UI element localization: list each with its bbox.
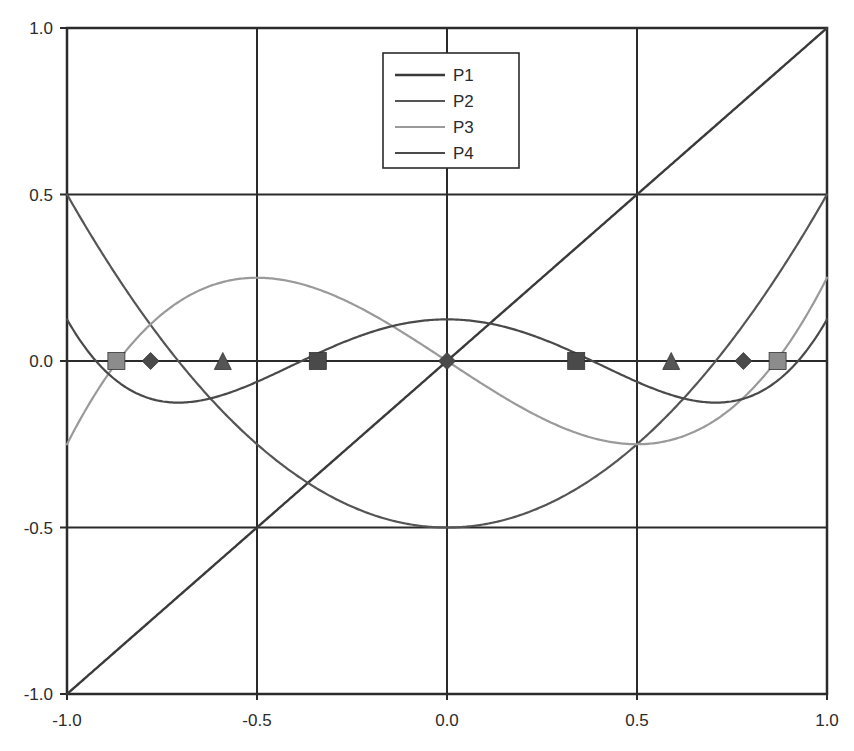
x-tick-label: 1.0 [815,711,839,730]
y-tick-label: 1.0 [29,19,53,38]
legend-label-p2: P2 [453,92,474,111]
root-marker-square [769,353,786,370]
legend: P1P2P3P4 [383,53,519,168]
polynomial-line-chart: -1.0-0.50.00.51.0 -1.0-0.50.00.51.0 P1P2… [0,0,854,751]
legend-label-p4: P4 [453,144,474,163]
y-tick-label: -0.5 [24,519,53,538]
y-tick-label: 0.0 [29,352,53,371]
root-marker-square [309,353,326,370]
root-marker-square [108,353,125,370]
y-tick-label: -1.0 [24,685,53,704]
x-tick-label: 0.5 [625,711,649,730]
y-tick-label: 0.5 [29,186,53,205]
legend-box [383,53,519,168]
x-tick-label: -1.0 [52,711,81,730]
x-tick-label: 0.0 [435,711,459,730]
chart-container: -1.0-0.50.00.51.0 -1.0-0.50.00.51.0 P1P2… [0,0,854,751]
x-tick-label: -0.5 [242,711,271,730]
root-marker-square [568,353,585,370]
legend-label-p1: P1 [453,66,474,85]
legend-label-p3: P3 [453,118,474,137]
